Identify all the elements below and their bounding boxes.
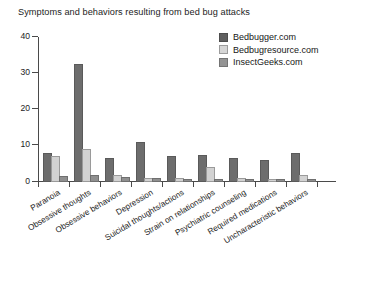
bar — [121, 177, 130, 182]
chart-legend: Bedbugger.comBedbugresource.comInsectGee… — [219, 31, 369, 69]
y-axis-tick-label: 20 — [4, 104, 30, 113]
legend-item: Bedbugresource.com — [219, 44, 369, 57]
x-axis-category-labels: ParanoiaObsessive thoughtsObsessive beha… — [0, 186, 371, 285]
legend-label: Bedbugresource.com — [233, 45, 319, 55]
y-axis-tick-label: 40 — [4, 32, 30, 41]
bar-group — [167, 37, 198, 182]
y-axis-tick-label: 30 — [4, 68, 30, 77]
bar — [276, 179, 285, 182]
legend-swatch-icon — [219, 58, 228, 67]
bar-group — [43, 37, 74, 182]
bar — [214, 179, 223, 182]
bar — [245, 179, 254, 182]
y-axis-tick-label: 0 — [4, 177, 30, 186]
bar — [136, 142, 145, 182]
y-axis-tick-label: 10 — [4, 140, 30, 149]
legend-swatch-icon — [219, 33, 228, 42]
bar — [307, 179, 316, 182]
bar — [183, 179, 192, 182]
legend-item: InsectGeeks.com — [219, 56, 369, 69]
bar — [59, 176, 68, 182]
bar-chart: Symptoms and behaviors resulting from be… — [0, 0, 371, 285]
legend-label: InsectGeeks.com — [233, 57, 303, 67]
bar-group — [105, 37, 136, 182]
legend-item: Bedbugger.com — [219, 31, 369, 44]
bar-group — [136, 37, 167, 182]
bar — [90, 175, 99, 182]
legend-label: Bedbugger.com — [233, 32, 296, 42]
bar-group — [74, 37, 105, 182]
chart-title: Symptoms and behaviors resulting from be… — [18, 7, 250, 18]
bar — [152, 178, 161, 182]
legend-swatch-icon — [219, 45, 228, 54]
